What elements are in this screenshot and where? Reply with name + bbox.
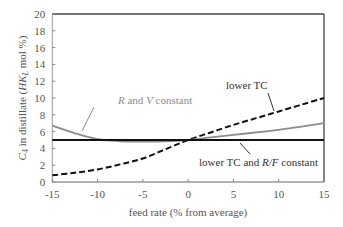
x-tick-label: 5 bbox=[231, 188, 237, 200]
y-tick-label: 4 bbox=[40, 142, 46, 154]
y-tick-label: 16 bbox=[34, 42, 46, 54]
y-tick-label: 18 bbox=[34, 25, 46, 37]
annotation-leader-lower-tc-rf bbox=[240, 143, 250, 154]
annotations: R and V constant lower TC lower TC and R… bbox=[82, 79, 318, 168]
x-tick-label: 15 bbox=[319, 188, 331, 200]
annotation-leader-r-v bbox=[82, 107, 94, 131]
series-r-and-v-constant bbox=[52, 123, 324, 141]
y-tick-label: 20 bbox=[34, 8, 46, 20]
y-axis-label: C4 in distillate (HKL mol %) bbox=[16, 35, 30, 160]
x-tick-label: -15 bbox=[45, 188, 60, 200]
y-tick-label: 6 bbox=[40, 126, 46, 138]
x-tick-label: 0 bbox=[185, 188, 191, 200]
x-tick-label: -5 bbox=[138, 188, 148, 200]
y-tick-label: 14 bbox=[34, 58, 46, 70]
chart: -15-10-505101502468101214161820 R and V … bbox=[0, 0, 343, 227]
annotation-r-v-constant: R and V constant bbox=[117, 94, 192, 106]
y-tick-label: 12 bbox=[34, 75, 45, 87]
x-tick-label: 10 bbox=[273, 188, 285, 200]
y-tick-label: 10 bbox=[34, 92, 46, 104]
x-axis-label: feed rate (% from average) bbox=[129, 206, 248, 219]
y-tick-label: 2 bbox=[40, 159, 46, 171]
annotation-lower-tc-rf-constant: lower TC and R/F constant bbox=[199, 156, 318, 168]
annotation-lower-tc: lower TC bbox=[226, 79, 268, 91]
y-tick-label: 8 bbox=[40, 109, 46, 121]
x-tick-label: -10 bbox=[90, 188, 105, 200]
y-tick-label: 0 bbox=[40, 176, 46, 188]
annotation-leader-lower-tc bbox=[268, 93, 274, 111]
